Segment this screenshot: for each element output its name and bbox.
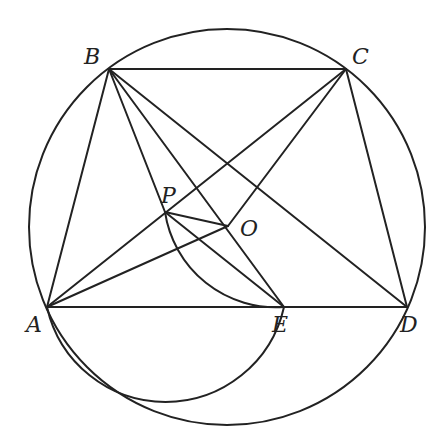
segment-CO [228, 69, 346, 226]
segment-AO [47, 226, 228, 307]
point-label-B: B [84, 46, 100, 68]
segment-AB [47, 69, 109, 307]
point-label-A: A [26, 314, 42, 336]
geometry-figure [0, 0, 445, 444]
segment-CD [346, 69, 407, 307]
point-label-P: P [161, 185, 176, 207]
point-label-O: O [240, 218, 258, 240]
point-label-E: E [272, 314, 288, 336]
arc-APE [47, 307, 284, 402]
point-label-D: D [400, 314, 418, 336]
point-label-C: C [352, 46, 369, 68]
